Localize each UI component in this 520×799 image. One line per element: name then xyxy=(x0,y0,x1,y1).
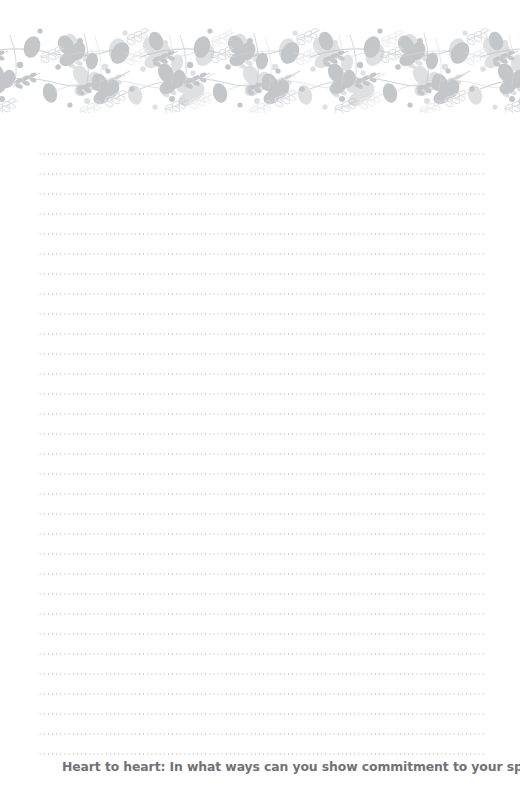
rule-line xyxy=(38,286,486,306)
rule-line xyxy=(38,666,486,686)
rule-line xyxy=(38,226,486,246)
rule-line xyxy=(38,266,486,286)
rule-line xyxy=(38,686,486,706)
rule-line xyxy=(38,486,486,506)
rule-line xyxy=(38,206,486,226)
rule-line xyxy=(38,606,486,626)
ruled-lines-area xyxy=(38,146,486,766)
floral-vine-border-icon xyxy=(0,27,520,113)
rule-line xyxy=(38,706,486,726)
rule-line xyxy=(38,646,486,666)
rule-line xyxy=(38,306,486,326)
rule-line xyxy=(38,426,486,446)
rule-line xyxy=(38,326,486,346)
rule-line xyxy=(38,406,486,426)
rule-line xyxy=(38,166,486,186)
journal-page: Heart to heart: In what ways can you sho… xyxy=(0,0,520,799)
rule-line xyxy=(38,366,486,386)
rule-line xyxy=(38,466,486,486)
rule-line xyxy=(38,446,486,466)
rule-line xyxy=(38,626,486,646)
rule-line xyxy=(38,386,486,406)
rule-line xyxy=(38,506,486,526)
rule-line xyxy=(38,346,486,366)
journal-prompt: Heart to heart: In what ways can you sho… xyxy=(62,759,490,774)
rule-line xyxy=(38,246,486,266)
rule-line xyxy=(38,526,486,546)
rule-line xyxy=(38,146,486,166)
rule-line xyxy=(38,546,486,566)
rule-line xyxy=(38,566,486,586)
rule-line xyxy=(38,726,486,746)
rule-line xyxy=(38,586,486,606)
rule-line xyxy=(38,186,486,206)
